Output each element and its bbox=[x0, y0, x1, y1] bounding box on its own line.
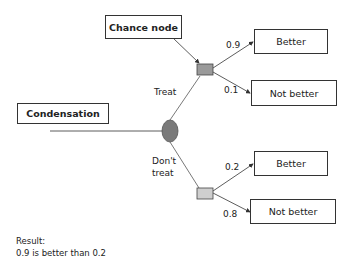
branch-label-treat: Treat bbox=[154, 86, 176, 98]
result-body: 0.9 is better than 0.2 bbox=[16, 247, 106, 259]
branch-label-dont-treat-1: Don't bbox=[152, 155, 176, 167]
branch-label-dont-treat-2: treat bbox=[152, 167, 174, 179]
outcome-box-dont-treat-better: Better bbox=[254, 151, 328, 176]
probability-label: 0.1 bbox=[224, 84, 238, 96]
outcome-box-treat-better: Better bbox=[254, 29, 328, 54]
outcome-box-treat-not-better: Not better bbox=[251, 80, 337, 106]
result-text: Result: 0.9 is better than 0.2 bbox=[16, 235, 106, 259]
chance-node-treat bbox=[197, 64, 213, 75]
probability-label: 0.9 bbox=[226, 39, 240, 51]
result-heading: Result: bbox=[16, 235, 106, 247]
chance-node-callout: Chance node bbox=[105, 15, 182, 39]
outcome-box-dont-treat-not-better: Not better bbox=[250, 199, 336, 224]
decision-node bbox=[162, 120, 178, 142]
probability-label: 0.2 bbox=[225, 161, 239, 173]
chance-node-dont-treat bbox=[197, 188, 213, 199]
condensation-box: Condensation bbox=[17, 103, 109, 124]
probability-label: 0.8 bbox=[223, 208, 237, 220]
